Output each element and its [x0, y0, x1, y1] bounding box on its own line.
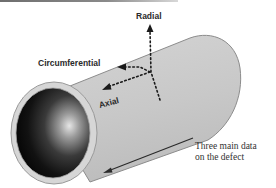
radial-arrowhead	[147, 24, 154, 32]
caption: Three main data on the defect	[195, 141, 257, 162]
pipe-defect-diagram: Radial Circumferential Axial Three main …	[0, 0, 276, 188]
caption-line-2: on the defect	[195, 152, 257, 163]
circumferential-label: Circumferential	[38, 59, 100, 68]
pipe-interior	[16, 88, 90, 178]
radial-label: Radial	[136, 12, 162, 21]
caption-line-1: Three main data	[195, 141, 257, 152]
